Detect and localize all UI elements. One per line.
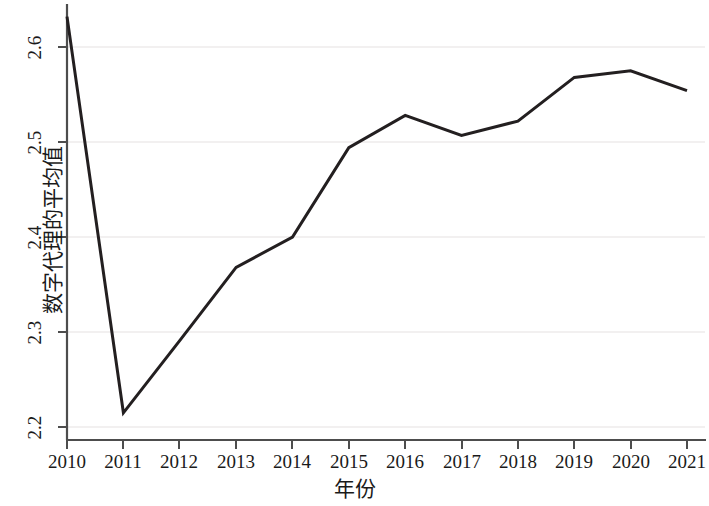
gridlines bbox=[67, 47, 705, 427]
x-tick-label-2012: 2012 bbox=[149, 452, 209, 471]
x-tick-label-2014: 2014 bbox=[262, 452, 322, 471]
y-axis-title: 数字代理的平均值 bbox=[34, 0, 68, 460]
x-tick-label-2019: 2019 bbox=[544, 452, 604, 471]
x-tick-label-2016: 2016 bbox=[375, 452, 435, 471]
x-tick-label-2021: 2021 bbox=[657, 452, 709, 471]
axis-lines bbox=[67, 4, 706, 440]
line-chart: 2.6 2.5 2.4 2.3 2.2 2010 2011 2012 2013 … bbox=[0, 0, 709, 506]
x-tick-label-2011: 2011 bbox=[93, 452, 153, 471]
x-tick-label-2013: 2013 bbox=[206, 452, 266, 471]
data-series-line bbox=[67, 17, 687, 413]
x-axis-title: 年份 bbox=[0, 472, 709, 502]
chart-canvas bbox=[0, 0, 709, 506]
x-tick-label-2017: 2017 bbox=[432, 452, 492, 471]
x-tick-label-2018: 2018 bbox=[488, 452, 548, 471]
x-tick-label-2015: 2015 bbox=[319, 452, 379, 471]
x-tick-marks bbox=[67, 440, 687, 449]
x-tick-label-2020: 2020 bbox=[601, 452, 661, 471]
